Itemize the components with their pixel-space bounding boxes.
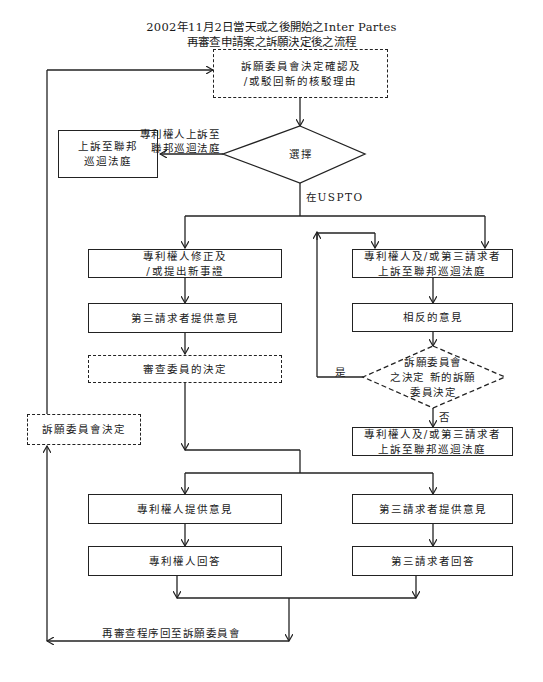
- return-to-board-label: 再審查程序回至訴願委員會: [102, 626, 240, 640]
- third-party-comments-box: 第三請求者提供意見: [88, 303, 282, 333]
- flowchart-connectors: [0, 0, 543, 682]
- patentee-comments-box: 專利權人提供意見: [88, 494, 282, 524]
- board-decision-confirm-box: 訴願委員會決定確認及 /或駁回新的核駁理由: [213, 49, 388, 98]
- third-party-comments-2-box: 第三請求者提供意見: [352, 494, 513, 524]
- diagram-title-line2: 再審查申請案之訴願決定後之流程: [0, 33, 543, 49]
- board-decision-box: 訴願委員會決定: [27, 414, 141, 445]
- no-label: 否: [439, 410, 451, 424]
- new-board-decision-label: 訴願委員會 之決定 新的訴願 委員決定: [383, 355, 483, 400]
- patentee-appeal-label: 專利權人上訴至 聯邦巡迴法庭: [108, 127, 220, 155]
- choice-label: 選擇: [263, 147, 338, 162]
- at-uspto-label: 在USPTO: [306, 190, 364, 204]
- diagram-title-line1: 2002年11月2日當天或之後開始之Inter Partes: [0, 18, 543, 34]
- yes-label: 是: [335, 365, 347, 379]
- appeal-both-box-2: 專利權人及/或第三請求者 上訴至聯邦巡迴法庭: [352, 427, 513, 456]
- patentee-reply-box: 專利權人回答: [88, 546, 282, 576]
- patentee-amend-box: 專利權人修正及 /或提出新事證: [88, 249, 282, 278]
- examiner-decision-box: 審查委員的決定: [88, 355, 282, 383]
- third-party-reply-box: 第三請求者回答: [352, 546, 513, 576]
- appeal-both-box-1: 專利權人及/或第三請求者 上訴至聯邦巡迴法庭: [352, 249, 513, 278]
- opposing-comments-box: 相反的意見: [352, 303, 513, 332]
